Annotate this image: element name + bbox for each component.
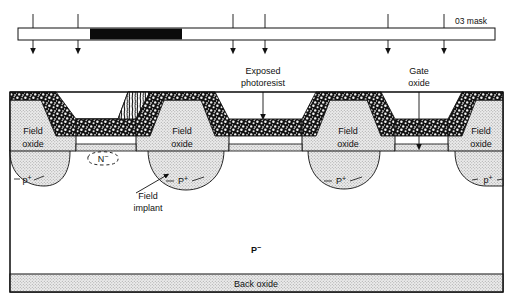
field-implant-line2: implant: [133, 203, 163, 213]
gate-oxide-segment-1: [76, 144, 136, 151]
field-oxide-2-line1: Field: [172, 126, 192, 136]
gate-oxide-line2: oxide: [408, 78, 430, 88]
resist-valley-3: [395, 119, 448, 136]
resist-valley-2: [229, 119, 302, 136]
figure-canvas: 03 mask: [0, 0, 513, 308]
back-oxide-label: Back oxide: [234, 279, 278, 289]
mask-opaque-region: [90, 29, 182, 40]
field-implant-line1: Field: [138, 191, 158, 201]
field-oxide-1-line2: oxide: [22, 139, 44, 149]
wafer-cross-section: [10, 92, 503, 292]
gate-oxide-segment-3: [395, 144, 448, 151]
gate-oxide-segment-2: [229, 144, 302, 151]
field-oxide-3-line1: Field: [338, 126, 358, 136]
field-oxide-3-line2: oxide: [337, 139, 359, 149]
mask-label: 03 mask: [455, 16, 488, 26]
process-cross-section-svg: 03 mask: [0, 0, 513, 308]
field-oxide-1-line1: Field: [23, 126, 43, 136]
field-oxide-4-line1: Field: [471, 126, 491, 136]
exposed-photoresist-line2: photoresist: [241, 78, 286, 88]
exposed-photoresist-line1: Exposed: [245, 66, 280, 76]
mask-plate: [18, 28, 495, 40]
resist-valley-1: [76, 119, 136, 136]
field-oxide-2-line2: oxide: [171, 139, 193, 149]
gate-oxide-line1: Gate: [409, 66, 429, 76]
field-oxide-4-line2: oxide: [470, 139, 492, 149]
